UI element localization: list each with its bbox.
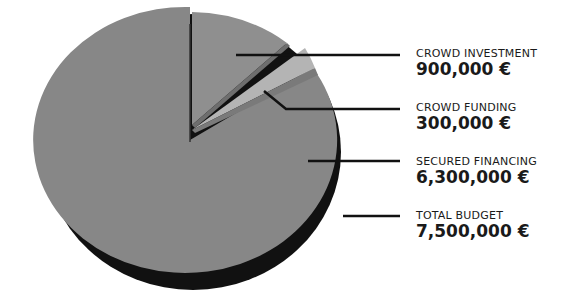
legend-total-budget: TOTAL BUDGET 7,500,000 € xyxy=(416,209,529,241)
legend-value: 6,300,000 € xyxy=(416,168,537,187)
legend-secured-financing: SECURED FINANCING 6,300,000 € xyxy=(416,155,537,187)
pie-chart xyxy=(0,0,581,305)
legend-crowd-investment: CROWD INVESTMENT 900,000 € xyxy=(416,47,537,79)
legend-value: 300,000 € xyxy=(416,114,517,133)
legend-crowd-funding: CROWD FUNDING 300,000 € xyxy=(416,101,517,133)
legend-value: 900,000 € xyxy=(416,60,537,79)
legend-value: 7,500,000 € xyxy=(416,222,529,241)
slice-secured-financing xyxy=(33,7,337,273)
